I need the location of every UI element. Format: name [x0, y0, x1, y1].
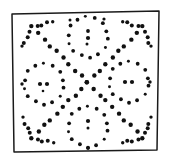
left-ring-dot: [26, 94, 30, 98]
corner-branch-bottom-right-dot: [146, 122, 150, 126]
corner-branch-bottom-right-dot: [136, 138, 140, 142]
corner-branch-bottom-left-dot: [23, 122, 27, 126]
loose-dot-top-gap-left: [69, 19, 72, 22]
diagonal-nw-se-dot: [36, 31, 40, 35]
diagonal-ne-sw-dot: [55, 111, 59, 115]
bottom-ring-dot: [103, 138, 106, 141]
right-ring-dot: [108, 76, 112, 80]
diagonal-nw-se-dot: [110, 105, 114, 109]
top-ring-dot: [96, 52, 100, 56]
bottom-ring-dot: [86, 105, 89, 108]
corner-branch-bottom-left-dot: [26, 126, 30, 130]
bottom-ring-dot: [70, 112, 74, 116]
corner-branch-bottom-left-dot: [40, 139, 44, 143]
right-ring-dot: [147, 84, 151, 88]
left-ring-dot: [34, 99, 38, 103]
loose-dot-left-gap: [20, 82, 23, 85]
right-ring-dot: [119, 97, 123, 101]
bottom-ring-dot: [78, 142, 82, 146]
diagonal-ne-sw-dot: [48, 118, 52, 122]
top-ring-dot: [104, 46, 107, 49]
top-ring-dot: [67, 33, 71, 37]
bottom-ring-center-dot: [87, 127, 90, 130]
corner-branch-top-left-dot: [22, 41, 26, 45]
diagonal-ne-sw-dot: [135, 31, 139, 35]
diagonal-ne-sw-dot: [122, 44, 126, 48]
left-ring-center-dot: [42, 90, 45, 93]
corner-branch-bottom-right-dot: [149, 115, 152, 118]
corner-branch-top-left-dot: [45, 20, 49, 24]
diagonal-ne-sw-dot: [29, 136, 33, 140]
corner-branch-bottom-right-dot: [121, 141, 124, 144]
top-ring-dot: [69, 24, 73, 28]
top-ring-dot: [106, 37, 110, 41]
diagonal-nw-se-dot: [48, 44, 52, 48]
diagonal-nw-se-dot: [54, 49, 58, 53]
left-ring-dot: [26, 69, 30, 73]
right-ring-dot: [127, 101, 131, 105]
corner-branch-bottom-left-dot: [36, 138, 40, 142]
top-ring-dot: [104, 29, 108, 33]
top-ring-dot: [76, 18, 80, 22]
top-ring-dot: [84, 15, 87, 18]
corner-branch-bottom-left-dot: [28, 131, 32, 135]
diagonal-ne-sw-dot: [103, 62, 107, 66]
loose-dot-bottom-gap: [86, 146, 90, 150]
top-ring-dot: [68, 42, 71, 45]
diagonal-ne-sw-dot: [74, 94, 78, 98]
top-ring-dot: [93, 16, 97, 20]
left-ring-dot: [42, 103, 46, 107]
diagonal-nw-se-dot: [91, 87, 95, 91]
right-ring-dot: [127, 60, 130, 63]
left-ring-dot: [61, 78, 65, 82]
corner-branch-top-left-dot: [51, 20, 54, 23]
loose-dot-right-gap: [148, 80, 151, 83]
top-ring-center-dot: [86, 29, 90, 33]
right-ring-dot: [135, 98, 139, 102]
diagonal-nw-se-dot: [73, 69, 77, 73]
bottom-ring-dot: [102, 113, 106, 117]
diagonal-nw-se-dot: [61, 55, 65, 59]
bottom-ring-dot: [70, 137, 74, 141]
diagonal-nw-se-dot: [80, 73, 84, 77]
loose-dot-top-gap-right: [102, 17, 105, 20]
corner-branch-top-right-dot: [130, 23, 134, 27]
diagonal-ne-sw-dot: [79, 87, 83, 91]
corner-branch-top-right-dot: [146, 35, 150, 39]
diagonal-ne-sw-dot: [116, 49, 120, 53]
left-ring-dot: [23, 87, 26, 90]
corner-branch-bottom-right-dot: [125, 139, 129, 143]
corner-branch-top-right-dot: [121, 20, 124, 23]
corner-branch-top-left-dot: [36, 24, 40, 28]
left-ring-dot: [59, 95, 62, 98]
diagonal-nw-se-dot: [98, 94, 102, 98]
diagonal-ne-sw-dot: [61, 105, 65, 109]
left-ring-center-dot: [45, 82, 49, 86]
top-ring-dot: [71, 49, 75, 53]
diagonal-nw-se-dot: [29, 24, 33, 28]
diagonal-nw-se-dot: [135, 129, 139, 133]
corner-branch-top-left-dot: [26, 35, 30, 39]
bottom-ring-dot: [67, 130, 70, 133]
diagonal-ne-sw-dot: [42, 123, 46, 127]
corner-branch-bottom-left-dot: [21, 115, 24, 118]
left-ring-dot: [23, 78, 27, 82]
diagonal-nw-se-dot: [43, 37, 47, 41]
diagonal-ne-sw-dot: [98, 69, 102, 73]
diagonal-nw-se-dot: [128, 123, 132, 127]
diagonal-ne-sw-dot: [129, 37, 133, 41]
corner-branch-top-left-dot: [28, 30, 32, 34]
figure-canvas: [0, 0, 172, 164]
top-ring-dot: [101, 21, 105, 25]
bottom-ring-dot: [106, 129, 110, 133]
corner-branch-top-right-dot: [146, 41, 150, 45]
corner-branch-bottom-right-dot: [130, 139, 134, 143]
corner-branch-bottom-left-dot: [52, 141, 55, 144]
diagonal-ne-sw-dot: [92, 73, 96, 77]
left-ring-center-dot: [38, 82, 42, 86]
right-ring-center-dot: [123, 80, 127, 84]
top-ring-center-dot: [86, 36, 90, 40]
diagonal-nw-se-dot: [122, 118, 126, 122]
corner-branch-top-right-dot: [149, 44, 152, 47]
diagonal-ne-sw-dot: [111, 55, 115, 59]
